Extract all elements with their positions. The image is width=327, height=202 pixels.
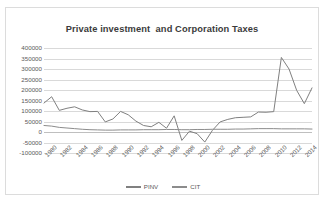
y-axis-tick-label: 200000	[6, 87, 42, 93]
plot-wrapper	[44, 48, 312, 153]
y-axis-tick-label: 400000	[6, 45, 42, 51]
legend-swatch-icon	[126, 186, 141, 188]
series-layer	[44, 48, 312, 153]
y-axis-tick-label: 50000	[6, 118, 42, 124]
x-axis: 1980198219841986198819901992199419961998…	[44, 154, 312, 184]
y-axis-tick-label: -100000	[6, 150, 42, 156]
chart-legend: PINVCIT	[6, 184, 320, 190]
y-axis-tick-label: 300000	[6, 66, 42, 72]
legend-label: CIT	[190, 184, 200, 190]
chart-container: Private investment and Corporation Taxes…	[5, 7, 319, 195]
y-axis-tick-label: 250000	[6, 76, 42, 82]
chart-title: Private investment and Corporation Taxes	[6, 24, 318, 34]
legend-label: PINV	[144, 184, 158, 190]
y-axis-tick-label: 100000	[6, 108, 42, 114]
y-axis-tick-label: -50000	[6, 139, 42, 145]
y-axis: 4000003500003000002500002000001500001000…	[6, 48, 42, 153]
legend-item-pinv[interactable]: PINV	[126, 184, 158, 190]
legend-item-cit[interactable]: CIT	[172, 184, 200, 190]
y-axis-tick-label: 150000	[6, 97, 42, 103]
y-axis-tick-label: 0	[6, 129, 42, 135]
y-axis-tick-label: 350000	[6, 55, 42, 61]
legend-swatch-icon	[172, 186, 187, 188]
